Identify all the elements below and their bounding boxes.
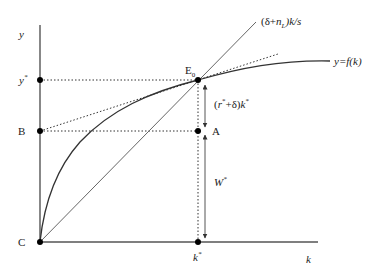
solow-diagram: y k y* B C E0 A k* (δ+nL)k/s y=f(k) (r*+… xyxy=(0,0,379,275)
production-curve xyxy=(40,61,330,242)
wage-label: W* xyxy=(214,175,227,188)
b-label: B xyxy=(18,125,25,137)
k-star-label: k* xyxy=(193,250,202,263)
a-label: A xyxy=(212,125,220,137)
y-star-label: y* xyxy=(18,73,28,86)
x-axis-label: k xyxy=(306,253,312,265)
e0-label: E0 xyxy=(185,64,196,79)
y-axis-label: y xyxy=(18,28,24,40)
investment-line-label: (δ+nL)k/s xyxy=(261,15,301,30)
point-a xyxy=(195,128,201,134)
point-c xyxy=(37,239,43,245)
production-curve-label: y=f(k) xyxy=(333,55,362,68)
investment-line xyxy=(40,22,256,242)
point-e0 xyxy=(195,77,201,83)
rental-label: (r*+δ)k* xyxy=(214,97,249,111)
point-b xyxy=(37,128,43,134)
c-label: C xyxy=(18,236,25,248)
point-y-star xyxy=(37,77,43,83)
point-k-star xyxy=(195,239,201,245)
